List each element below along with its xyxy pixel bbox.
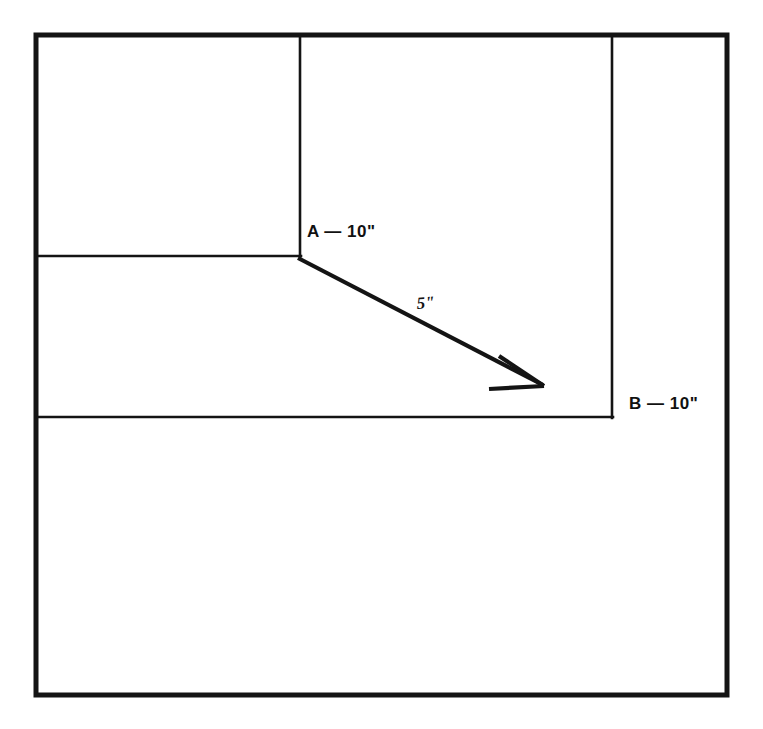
point-a-label: A — 10" — [307, 222, 376, 242]
dimension-arrow-head-barb-lower — [489, 386, 544, 389]
point-b-label: B — 10" — [629, 394, 698, 414]
outer-frame-rect — [36, 35, 727, 695]
arrow-length-label: 5" — [416, 293, 435, 314]
dimension-arrow-shaft — [298, 258, 543, 385]
dimension-arrow-head-barb-upper — [499, 356, 544, 386]
technical-diagram-canvas — [0, 0, 763, 729]
